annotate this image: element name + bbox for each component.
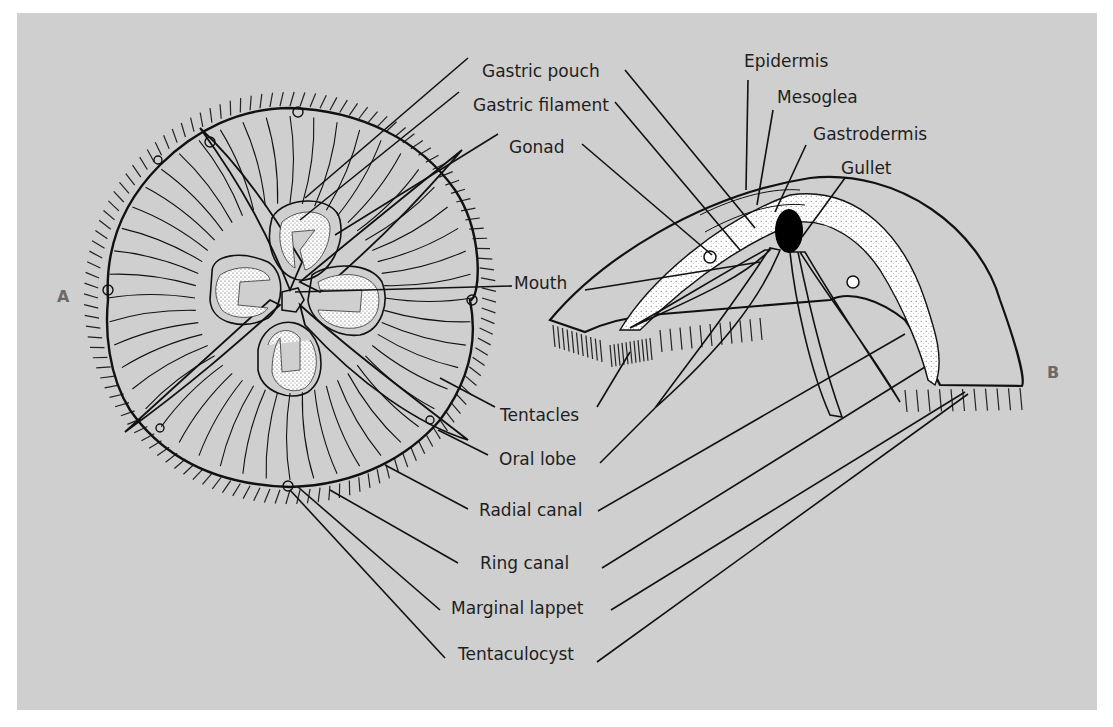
label-tentacles: Tentacles	[499, 405, 579, 425]
label-mouth: Mouth	[514, 273, 567, 293]
label-gastrodermis: Gastrodermis	[813, 124, 927, 144]
label-ring-canal: Ring canal	[480, 553, 569, 573]
view-b-gonad-right	[847, 276, 859, 288]
label-oral-lobe: Oral lobe	[499, 449, 576, 469]
view-a-oral-view	[84, 92, 496, 504]
view-b-marker: B	[1047, 363, 1059, 382]
marginal-tentacles-fringe	[84, 92, 496, 504]
label-marginal-lappet: Marginal lappet	[451, 598, 584, 618]
view-b-tentacles	[553, 318, 1022, 412]
label-gonad: Gonad	[509, 137, 565, 157]
label-radial-canal: Radial canal	[479, 500, 583, 520]
label-epidermis: Epidermis	[744, 51, 828, 71]
jellyfish-diagram: Gastric pouch Gastric filament Gonad Mou…	[0, 0, 1113, 727]
view-b-side-view	[550, 177, 1023, 417]
label-mesoglea: Mesoglea	[777, 87, 858, 107]
gullet	[775, 209, 803, 253]
label-gastric-filament: Gastric filament	[473, 95, 609, 115]
oral-arms	[125, 128, 468, 440]
label-gastric-pouch: Gastric pouch	[482, 61, 600, 81]
label-gullet: Gullet	[841, 158, 892, 178]
view-a-marker: A	[57, 287, 70, 306]
label-tentaculocyst: Tentaculocyst	[457, 644, 574, 664]
